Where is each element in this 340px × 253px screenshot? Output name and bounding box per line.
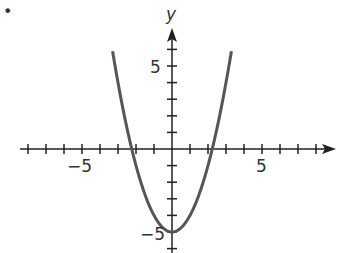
x-axis	[20, 144, 336, 154]
x-tick-label-5: 5	[256, 156, 267, 176]
y-axis	[167, 28, 177, 253]
y-tick-label-5: 5	[150, 57, 161, 77]
parabola-chart: y −5 5 5 −5	[0, 0, 340, 253]
y-axis-label: y	[165, 4, 177, 24]
y-tick-label-neg5: −5	[140, 224, 165, 244]
x-tick-label-neg5: −5	[67, 156, 92, 176]
